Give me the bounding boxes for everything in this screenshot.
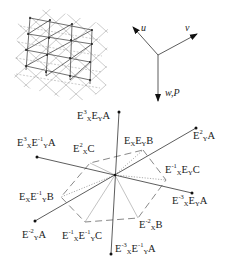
spoke-vertical	[111, 112, 119, 254]
label-hex-Ex2C: E2XC	[73, 144, 94, 155]
label-lower-left: E-2YA	[22, 230, 46, 241]
label-left: E3XE-1YA	[17, 138, 56, 149]
figure-canvas	[0, 0, 225, 265]
label-upper-right: E2YA	[193, 131, 215, 142]
label-hex-ExEyB: EXEYB	[124, 136, 153, 147]
label-hex-Ex2B: E-2XB	[139, 220, 163, 231]
wp-axis-label: w,P	[165, 88, 180, 98]
label-hex-ExEy-1B: EXE-1YB	[19, 192, 54, 203]
label-bottom: E-3XE-1YA	[115, 244, 156, 255]
label-hex-Ex-1EyC: E-1XEYC	[165, 165, 200, 176]
lattice-panel	[14, 8, 108, 102]
v-axis-arrow	[158, 34, 197, 55]
u-axis-label: u	[141, 23, 146, 33]
label-right: E-3XEYA	[172, 196, 207, 207]
label-hex-Ex-1Ey-1C: E-1XE-1YC	[62, 231, 102, 242]
star-diagram	[34, 111, 198, 256]
v-axis-label: v	[185, 23, 189, 33]
label-top: E3XEYA	[77, 111, 110, 122]
